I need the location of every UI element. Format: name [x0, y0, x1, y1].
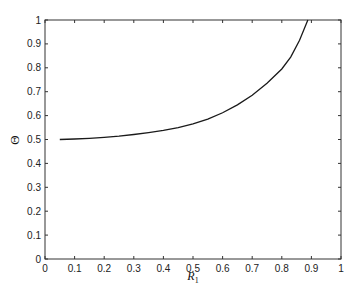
y-tick-label: 0.2: [27, 206, 41, 217]
x-tick-label: 0.7: [245, 263, 259, 274]
y-tick-label: 0.8: [27, 62, 41, 73]
x-tick-label: 0.2: [97, 263, 111, 274]
x-tick-label: 0.8: [275, 263, 289, 274]
y-tick-label: 0.4: [27, 158, 41, 169]
x-tick-label: 1: [338, 263, 344, 274]
x-tick-label: 0.3: [127, 263, 141, 274]
x-tick-label: 0.1: [68, 263, 82, 274]
y-tick-label: 0.9: [27, 38, 41, 49]
axes-frame: [45, 20, 341, 259]
y-tick-label: 0: [35, 254, 41, 265]
x-tick-label: 0: [42, 263, 48, 274]
x-tick-label: 0.9: [304, 263, 318, 274]
y-axis-label: Θ: [7, 135, 22, 144]
y-tick-label: 0.5: [27, 134, 41, 145]
y-axis-tick-labels: 00.10.20.30.40.50.60.70.80.91: [27, 15, 41, 265]
y-tick-label: 0.6: [27, 110, 41, 121]
chart: 00.10.20.30.40.50.60.70.80.91 00.10.20.3…: [0, 0, 359, 301]
plot-area: [45, 20, 341, 259]
x-tick-label: 0.6: [216, 263, 230, 274]
y-tick-label: 0.7: [27, 86, 41, 97]
y-tick-label: 1: [35, 15, 41, 26]
y-tick-label: 0.3: [27, 182, 41, 193]
x-tick-label: 0.4: [156, 263, 170, 274]
y-tick-label: 0.1: [27, 230, 41, 241]
